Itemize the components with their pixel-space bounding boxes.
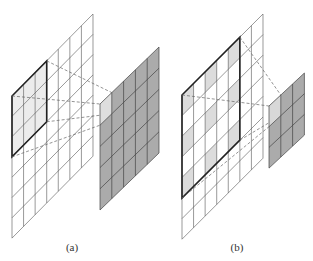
convolution-diagram (0, 0, 313, 261)
output-grid-a (100, 47, 159, 210)
caption-b: (b) (231, 241, 244, 253)
input-grid-b (182, 14, 263, 239)
caption-a: (a) (66, 241, 78, 253)
